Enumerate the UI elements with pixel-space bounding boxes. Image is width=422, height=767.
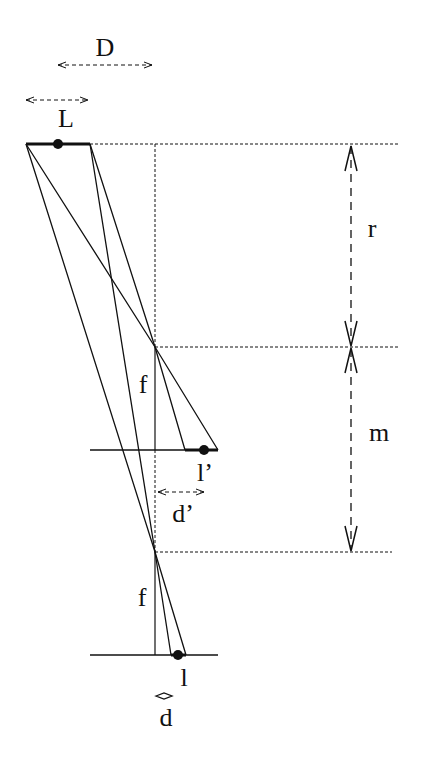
label-f-lower: f [138, 583, 147, 612]
label-d-prime: d’ [172, 499, 194, 528]
label-l-prime: l’ [197, 458, 213, 487]
dimension-d-prime: d’ [158, 492, 204, 528]
image-plane-l: l [90, 650, 218, 692]
label-l: l [180, 663, 187, 692]
ray-diagram: D L l’ d’ [0, 0, 422, 767]
label-L: L [58, 104, 74, 133]
label-D: D [96, 33, 115, 62]
ray-left-upper [26, 144, 218, 450]
dimension-m [345, 348, 357, 551]
d-arrow [156, 693, 172, 699]
label-f-upper: f [139, 370, 148, 399]
l-point [173, 650, 183, 660]
dimension-d: d [156, 693, 173, 732]
object-bar-L [26, 139, 90, 149]
reference-lines [90, 144, 400, 552]
rays [26, 144, 218, 655]
label-r: r [368, 214, 377, 243]
image-plane-l-prime: l’ [90, 445, 218, 487]
label-d: d [160, 703, 173, 732]
dimension-D: D [58, 33, 152, 65]
label-m: m [369, 418, 389, 447]
L-point [53, 139, 63, 149]
l-prime-point [199, 445, 209, 455]
dimension-L: L [26, 100, 88, 133]
ray-right-upper [90, 144, 185, 450]
dimension-r [345, 146, 357, 346]
ray-right-lower [90, 144, 171, 655]
ray-left-lower [26, 144, 186, 655]
